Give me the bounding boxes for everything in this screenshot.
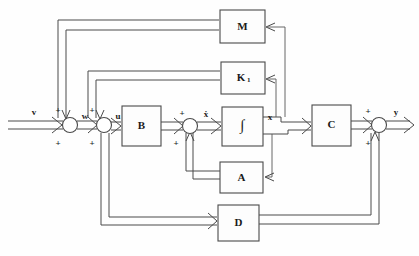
- block-C[interactable]: C: [312, 105, 351, 146]
- signal-label-u: u: [115, 111, 120, 121]
- summing-junction-xdot[interactable]: [183, 119, 198, 134]
- wire-u-to-D: [101, 133, 217, 229]
- wire-x-to-A: [265, 134, 274, 181]
- block-M[interactable]: M: [220, 10, 265, 43]
- sign-sumu-top: +: [89, 105, 94, 115]
- wire-M-to-sumw: [58, 20, 219, 119]
- signal-label-xdot: ẋ: [204, 109, 209, 119]
- wire-sumxdot-to-integrator: [197, 118, 221, 134]
- sign-sumy-top: +: [365, 106, 370, 116]
- sign-sumw-top: +: [55, 105, 60, 115]
- summing-junction-y[interactable]: [372, 118, 387, 133]
- wire-x-to-M: [266, 23, 285, 117]
- wire-v-to-sumw: [8, 117, 63, 133]
- wire-x-to-K1: [266, 75, 276, 117]
- sign-sumw-bottom: +: [55, 138, 60, 148]
- summing-junction-w[interactable]: [63, 118, 78, 133]
- sign-sumu-bottom: +: [89, 138, 94, 148]
- summing-junction-u[interactable]: [97, 118, 112, 133]
- block-D[interactable]: D: [218, 205, 259, 241]
- wire-C-to-sumy: [351, 117, 372, 133]
- block-C-label: C: [328, 118, 336, 130]
- block-K1[interactable]: K 1: [221, 62, 265, 94]
- sign-sumy-bottom: +: [365, 138, 370, 148]
- signal-label-w: w: [82, 111, 89, 121]
- block-B-label: B: [138, 119, 146, 131]
- wire-B-to-sumxdot: [161, 118, 183, 134]
- signal-label-y: y: [394, 107, 399, 117]
- sign-sumxdot-bottom: +: [173, 138, 178, 148]
- block-K1-label: K: [237, 71, 246, 83]
- figure-canvas: M K 1 ∫ A D B C: [0, 0, 419, 256]
- signal-label-x: x: [268, 112, 273, 122]
- sign-sumxdot-top: +: [179, 108, 184, 118]
- signal-label-v: v: [32, 107, 37, 117]
- block-K1-subscript: 1: [247, 76, 251, 84]
- block-B[interactable]: B: [122, 106, 161, 146]
- block-diagram: M K 1 ∫ A D B C: [0, 0, 419, 256]
- block-A[interactable]: A: [220, 162, 263, 193]
- block-M-label: M: [237, 20, 248, 32]
- block-D-label: D: [235, 216, 243, 228]
- wire-A-to-sumxdot: [186, 132, 220, 179]
- wire-sumy-to-output: [386, 117, 414, 133]
- block-A-label: A: [238, 171, 246, 183]
- block-integrator[interactable]: ∫: [222, 107, 263, 146]
